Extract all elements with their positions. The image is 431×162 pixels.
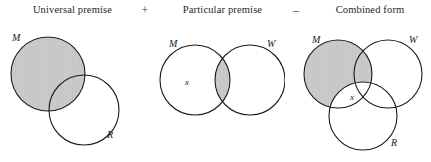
set-label-r: R <box>106 129 113 140</box>
venn-figure: Universal premise + Particular premise –… <box>0 0 431 162</box>
set-label-m: M <box>11 32 21 43</box>
column-title-combined-form: Combined form <box>310 4 430 15</box>
set-label-w: W <box>267 38 277 49</box>
operator-minus-icon: – <box>283 3 309 18</box>
set-label-m: M <box>168 38 178 49</box>
x-mark-m-intersect-r: x <box>349 92 354 102</box>
set-label-r: R <box>390 137 397 148</box>
venn-diagram-universal-premise: M R <box>0 24 138 156</box>
venn-diagram-combined-form: M W R x <box>292 24 431 160</box>
venn-diagram-particular-premise: M W x <box>145 24 285 144</box>
column-title-particular-premise: Particular premise <box>160 4 285 15</box>
set-label-m: M <box>311 34 321 45</box>
operator-plus-icon: + <box>132 3 158 18</box>
x-mark-m-only: x <box>184 77 189 87</box>
column-title-universal-premise: Universal premise <box>10 4 135 15</box>
column-headings: Universal premise + Particular premise –… <box>0 0 431 24</box>
